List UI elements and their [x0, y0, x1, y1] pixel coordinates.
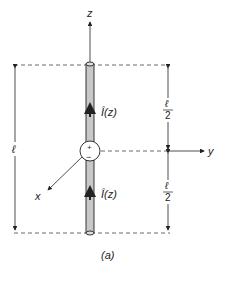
lower-half-den: 2 [165, 192, 171, 203]
x-axis-label: x [34, 190, 41, 202]
z-axis-label: z [86, 7, 93, 19]
y-axis-label: y [207, 145, 215, 157]
wire-top-end [86, 62, 94, 66]
figure-caption: (a) [101, 249, 115, 261]
current-label-bottom: Î(z) [101, 188, 117, 200]
feed-minus: − [86, 152, 91, 162]
upper-half-den: 2 [165, 110, 171, 121]
total-length-label: ℓ [11, 143, 16, 155]
current-label-top: Î(z) [101, 106, 117, 118]
dipole-antenna-diagram: z y x + − Î(z) Î(z) ℓ ℓ 2 ℓ 2 (a) [0, 0, 226, 283]
wire-bottom-end [86, 231, 94, 235]
x-axis [48, 157, 82, 190]
feed-plus: + [87, 143, 92, 152]
